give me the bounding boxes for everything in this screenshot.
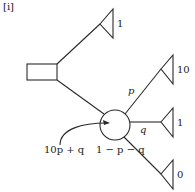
payoff-top: 1 [117,19,123,29]
payoff-rest-branch: 0 [177,170,183,180]
edge-rest-terminal [124,137,161,174]
terminal-triangle-rest-branch [161,160,173,189]
prob-label-p: p [128,86,134,96]
chance-node-circle [100,110,130,140]
decision-tree-diagram [0,0,195,192]
nodes [27,64,130,140]
decision-node-square [27,64,57,80]
payoff-p-branch: 10 [177,65,190,75]
curved-arrow-shaft [60,123,106,145]
terminal-triangle-q-branch [161,108,173,137]
payoff-q-branch: 1 [177,118,183,128]
panel-label: [i] [3,2,14,12]
prob-label-q: q [140,125,146,135]
terminal-triangle-p-branch [161,55,173,84]
terminal-triangle-top [100,9,113,38]
edge-top-terminal [57,24,100,64]
prob-label-rest: 1 − p − q [96,145,145,155]
edge-chance [57,80,104,114]
expected-value-label: 10p + q [44,145,84,155]
